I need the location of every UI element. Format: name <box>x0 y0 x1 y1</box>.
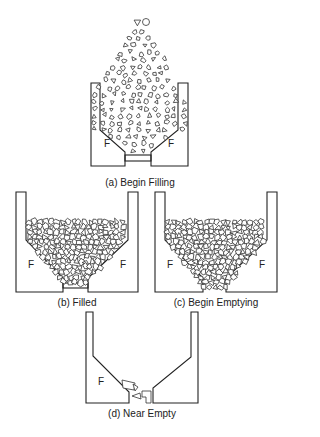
particle <box>123 43 128 47</box>
particle <box>259 224 264 229</box>
panel-d-hopper: F <box>86 312 198 403</box>
particle <box>152 58 156 62</box>
particle <box>120 66 125 72</box>
caption-a: (a) Begin Filling <box>105 177 174 188</box>
particles-c <box>164 218 266 290</box>
particle <box>128 50 132 54</box>
particle <box>151 43 157 48</box>
particle <box>149 144 153 149</box>
particle <box>118 53 123 57</box>
particle <box>127 114 132 120</box>
particle <box>145 107 149 112</box>
particle <box>133 135 137 139</box>
particle <box>156 127 160 132</box>
particle <box>139 52 144 57</box>
particle <box>166 239 172 244</box>
particle <box>172 121 177 126</box>
particle <box>102 93 106 98</box>
particle <box>185 249 190 254</box>
particle <box>101 121 105 126</box>
panel-c-hopper: F F <box>155 192 277 292</box>
particle <box>172 86 176 91</box>
particle <box>109 115 114 119</box>
particle <box>183 100 187 104</box>
particle <box>166 79 170 83</box>
particle <box>110 66 115 71</box>
particle <box>103 112 107 116</box>
particles-a <box>91 19 187 154</box>
particle <box>144 99 149 104</box>
particle <box>92 120 97 125</box>
particle <box>47 228 53 234</box>
particle <box>121 108 126 112</box>
particle <box>127 36 132 40</box>
particle <box>164 65 169 70</box>
caption-c: (c) Begin Emptying <box>174 297 258 308</box>
particle <box>91 99 96 103</box>
particle <box>148 50 152 55</box>
particle <box>70 244 76 250</box>
particle <box>146 36 151 40</box>
particle <box>137 127 141 132</box>
particle <box>117 70 122 75</box>
particle <box>155 121 160 126</box>
particle <box>131 42 136 46</box>
particle <box>52 269 58 276</box>
particle <box>209 260 214 265</box>
particle <box>118 114 123 119</box>
particle <box>181 114 187 119</box>
particle <box>171 114 175 118</box>
particle <box>93 92 97 98</box>
particle <box>143 19 150 26</box>
particle <box>111 101 114 105</box>
hopper-a-gate <box>125 155 151 161</box>
caption-b: (b) Filled <box>58 297 97 308</box>
force-label-a-right: F <box>168 138 174 149</box>
particle <box>108 87 112 92</box>
particle <box>136 36 140 40</box>
particle <box>92 248 98 254</box>
particle <box>187 243 192 249</box>
particle <box>101 108 105 112</box>
particle <box>165 101 170 105</box>
particle <box>141 149 145 153</box>
particle <box>142 391 151 403</box>
particle <box>217 285 224 290</box>
particle <box>146 129 151 133</box>
particle <box>92 114 96 118</box>
particle <box>131 149 136 153</box>
particle <box>147 78 152 83</box>
particle <box>165 107 169 112</box>
particle <box>126 134 131 138</box>
particles-b <box>25 218 126 287</box>
particle <box>110 121 115 126</box>
particle <box>100 238 106 245</box>
particle <box>102 128 107 131</box>
particle <box>103 230 108 234</box>
particle <box>148 93 153 98</box>
particle <box>122 80 126 85</box>
particle <box>147 65 151 70</box>
particle <box>92 126 96 130</box>
particle <box>209 234 214 239</box>
particle <box>132 57 137 61</box>
particle <box>134 20 141 26</box>
particle <box>160 84 165 89</box>
particle <box>142 86 146 90</box>
particle <box>118 127 122 132</box>
particle <box>156 94 161 99</box>
particle <box>32 234 37 239</box>
particle <box>126 128 131 132</box>
particle <box>218 249 224 255</box>
particle <box>65 230 71 236</box>
particle <box>226 259 232 265</box>
particle <box>126 84 131 88</box>
particle <box>88 244 93 250</box>
particle <box>104 77 108 82</box>
particle <box>111 79 116 83</box>
particle <box>232 240 238 246</box>
particle <box>229 249 234 255</box>
particle <box>122 141 127 145</box>
particle <box>131 66 136 70</box>
particle <box>128 77 133 82</box>
